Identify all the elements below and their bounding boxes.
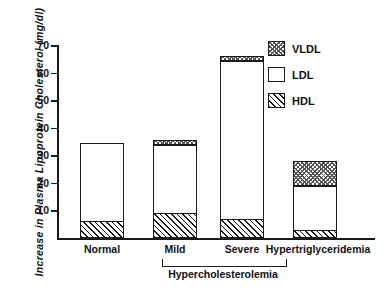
bar-segment-ldl (80, 143, 124, 222)
bar-mild (153, 140, 197, 238)
legend-label-hdl: HDL (292, 95, 315, 107)
legend-swatch-hdl-icon (268, 93, 285, 108)
y-tick-label: 20 (37, 177, 49, 189)
bar-segment-hdl (153, 213, 197, 238)
bar-severe (220, 56, 264, 238)
legend-label-ldl: LDL (292, 69, 313, 81)
bar-segment-hdl (220, 219, 264, 238)
y-tick-mark (51, 73, 57, 75)
y-axis-line (57, 45, 59, 240)
legend-swatch-vldl-icon (268, 41, 285, 56)
y-tick-label: 10 (37, 204, 49, 216)
y-tick-label: 50 (37, 94, 49, 106)
x-label-mild: Mild (165, 243, 186, 255)
x-label-severe: Severe (225, 243, 259, 255)
bar-hypertriglyceridemia (293, 161, 337, 238)
y-tick-label: 60 (37, 67, 49, 79)
x-label-normal: Normal (84, 243, 120, 255)
legend-label-vldl: VLDL (292, 43, 321, 55)
y-tick-mark (51, 155, 57, 157)
legend-item-hdl: HDL (268, 92, 321, 109)
legend: VLDL LDL HDL (268, 40, 321, 118)
chart-figure: Increase in Plasma Lipoprotein Cholester… (0, 0, 385, 292)
y-tick-label: 40 (37, 122, 49, 134)
bar-segment-hdl (80, 221, 124, 238)
group-bracket (162, 259, 287, 267)
bar-segment-ldl (293, 186, 337, 230)
legend-item-ldl: LDL (268, 66, 321, 83)
bar-segment-ldl (153, 145, 197, 213)
y-tick-mark (51, 210, 57, 212)
bar-normal (80, 143, 124, 238)
legend-swatch-ldl-icon (268, 67, 285, 82)
bar-segment-ldl (220, 61, 264, 219)
bar-segment-hdl (293, 230, 337, 238)
bar-segment-vldl (293, 161, 337, 186)
y-tick-mark (51, 183, 57, 185)
group-bracket-label: Hypercholesterolemia (168, 268, 278, 280)
x-label-hypertriglyceridemia: Hypertriglyceridemia (266, 243, 370, 255)
legend-item-vldl: VLDL (268, 40, 321, 57)
y-tick-label: 70 (37, 39, 49, 51)
y-tick-mark (51, 45, 57, 47)
y-tick-mark (51, 100, 57, 102)
y-tick-mark (51, 128, 57, 130)
y-tick-label: 30 (37, 149, 49, 161)
x-axis-line (57, 238, 375, 240)
plot-area: 70 60 50 40 30 20 10 (57, 45, 375, 240)
